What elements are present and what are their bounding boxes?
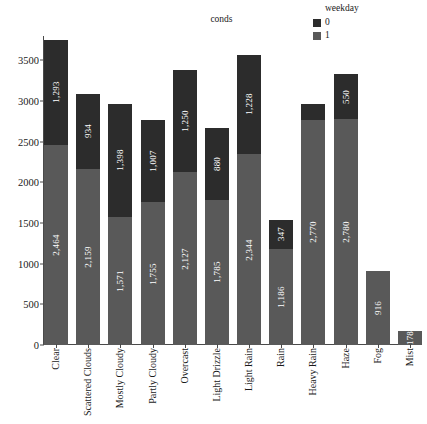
- bar-column[interactable]: 5502,780: [334, 36, 358, 345]
- bar-segment-label: 2,344: [244, 239, 254, 260]
- x-axis-tick-label: Fog: [372, 348, 383, 364]
- y-axis-tick-label: 1500: [18, 218, 39, 229]
- bar-segment[interactable]: 1,785: [205, 200, 229, 345]
- bar-segment-label: 934: [83, 124, 93, 138]
- x-axis-tick-label: Clear: [51, 348, 62, 370]
- bar-column[interactable]: 1,0071,755: [141, 36, 165, 345]
- x-axis-tick-label: Partly Cloudy: [147, 348, 158, 422]
- bar-segment-label: 550: [341, 90, 351, 104]
- bar-segment[interactable]: 2,127: [173, 172, 197, 345]
- x-axis-label-cell[interactable]: Mostly Cloudy: [108, 348, 132, 422]
- x-axis-tick-label: Overcast: [179, 348, 190, 384]
- bar-segment-label: 2,770: [308, 222, 318, 243]
- bar-segment[interactable]: 2,770: [301, 120, 325, 345]
- x-axis-tick-label: Rain: [276, 348, 287, 367]
- bar-segment-label: 1,785: [212, 262, 222, 283]
- bar-segment-label: 2,159: [83, 247, 93, 268]
- bar-segment-label: 178: [405, 331, 415, 345]
- x-axis-label-cell[interactable]: Rain: [269, 348, 293, 422]
- bar-segment-label: 880: [212, 157, 222, 171]
- x-axis-tick-label: Haze: [340, 348, 351, 369]
- bar-segment[interactable]: 1,250: [173, 70, 197, 172]
- x-axis-tick-label: Light Drizzle: [212, 348, 223, 422]
- bar-segment[interactable]: 1,007: [141, 120, 165, 202]
- x-axis-labels: ClearScattered CloudsMostly CloudyPartly…: [44, 348, 422, 422]
- y-axis-tick-label: 3500: [18, 55, 39, 66]
- x-axis-label-cell[interactable]: Light Rain: [237, 348, 261, 422]
- bar-column[interactable]: 2,770: [301, 36, 325, 345]
- bar-segment[interactable]: 1,571: [108, 217, 132, 345]
- bar-segment-label: 2,464: [51, 234, 61, 255]
- bar-segment-label: 1,250: [180, 111, 190, 132]
- x-axis-label-cell[interactable]: Mist: [398, 348, 422, 422]
- bar-segment[interactable]: [301, 104, 325, 120]
- x-axis-label-cell[interactable]: Heavy Rain: [301, 348, 325, 422]
- y-axis-tick-label: 0: [34, 340, 39, 351]
- bar-column[interactable]: 1,3981,571: [108, 36, 132, 345]
- bar-segment-label: 1,398: [115, 150, 125, 171]
- bar-column[interactable]: 916: [366, 36, 390, 345]
- bar-segment[interactable]: 1,228: [237, 55, 261, 155]
- x-axis-label-cell[interactable]: Light Drizzle: [205, 348, 229, 422]
- bar-series-group: 1,2932,4649342,1591,3981,5711,0071,7551,…: [44, 36, 422, 345]
- bar-segment-label: 916: [373, 301, 383, 315]
- y-axis-tick-label: 500: [23, 299, 39, 310]
- x-axis-label-cell[interactable]: Clear: [44, 348, 68, 422]
- bar-column[interactable]: 178: [398, 36, 422, 345]
- bar-segment[interactable]: 2,464: [44, 145, 68, 345]
- x-axis-tick-label: Scattered Clouds: [83, 348, 94, 422]
- x-axis-label-cell[interactable]: Scattered Clouds: [76, 348, 100, 422]
- bar-column[interactable]: 8801,785: [205, 36, 229, 345]
- bar-segment-label: 347: [276, 227, 286, 241]
- chart-title: conds: [0, 14, 427, 24]
- bar-column[interactable]: 1,2932,464: [44, 36, 68, 345]
- y-axis-tick-label: 2500: [18, 136, 39, 147]
- bar-segment[interactable]: 178: [398, 331, 422, 345]
- bar-segment-label: 1,571: [115, 271, 125, 292]
- bar-segment[interactable]: 1,755: [141, 202, 165, 345]
- bar-segment-label: 2,780: [341, 221, 351, 242]
- y-axis-tick-label: 2000: [18, 177, 39, 188]
- stacked-bar-chart: weekday 0 1 conds 0500100015002000250030…: [0, 0, 427, 424]
- bar-segment-label: 1,755: [148, 263, 158, 284]
- bar-segment-label: 1,186: [276, 286, 286, 307]
- x-axis-tick-label: Light Rain: [244, 348, 255, 422]
- bar-segment-label: 1,293: [51, 81, 61, 102]
- bar-segment[interactable]: 1,293: [44, 40, 68, 145]
- plot-area: 0500100015002000250030003500 1,2932,4649…: [44, 36, 422, 345]
- bar-segment[interactable]: 934: [76, 94, 100, 170]
- bar-segment[interactable]: 1,186: [269, 249, 293, 345]
- x-axis-label-cell[interactable]: Partly Cloudy: [141, 348, 165, 422]
- bar-segment[interactable]: 347: [269, 220, 293, 248]
- x-axis-tick-label: Heavy Rain: [308, 348, 319, 422]
- bar-segment[interactable]: 550: [334, 74, 358, 119]
- x-axis-tick-label: Mostly Cloudy: [115, 348, 126, 422]
- bar-segment[interactable]: 916: [366, 271, 390, 345]
- bar-segment[interactable]: 880: [205, 128, 229, 200]
- bar-segment[interactable]: 2,780: [334, 119, 358, 345]
- x-axis-label-cell[interactable]: Overcast: [173, 348, 197, 422]
- x-axis-label-cell[interactable]: Haze: [334, 348, 358, 422]
- bar-segment-label: 2,127: [180, 248, 190, 269]
- y-axis-tick-label: 1000: [18, 258, 39, 269]
- x-axis-tick-label: Mist: [405, 348, 416, 366]
- bar-segment[interactable]: 2,344: [237, 154, 261, 345]
- bar-segment-label: 1,228: [244, 94, 254, 115]
- bar-segment-label: 1,007: [148, 151, 158, 172]
- bar-column[interactable]: 9342,159: [76, 36, 100, 345]
- y-axis-tick-label: 3000: [18, 96, 39, 107]
- bar-column[interactable]: 3471,186: [269, 36, 293, 345]
- bar-column[interactable]: 1,2282,344: [237, 36, 261, 345]
- x-axis-label-cell[interactable]: Fog: [366, 348, 390, 422]
- bar-segment[interactable]: 1,398: [108, 104, 132, 218]
- bar-segment[interactable]: 2,159: [76, 169, 100, 345]
- bar-column[interactable]: 1,2502,127: [173, 36, 197, 345]
